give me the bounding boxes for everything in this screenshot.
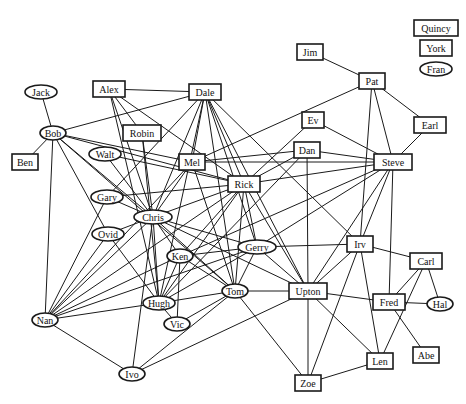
node-nan[interactable]: Nan (32, 313, 58, 327)
node-label: Bob (45, 128, 62, 139)
edge-carl-len (380, 261, 426, 361)
edge-tom-zoe (235, 291, 308, 383)
node-upton[interactable]: Upton (289, 283, 327, 299)
edge-steve-gerry (257, 162, 393, 247)
node-ken[interactable]: Ken (167, 249, 193, 263)
node-label: Fred (380, 297, 398, 308)
node-label: Alex (99, 84, 118, 95)
node-label: Hugh (148, 298, 170, 309)
node-label: Steve (382, 157, 405, 168)
node-label: York (426, 43, 446, 54)
node-label: Irv (354, 239, 366, 250)
node-robin[interactable]: Robin (123, 125, 161, 141)
node-zoe[interactable]: Zoe (295, 375, 321, 391)
edge-ovid-nan (45, 234, 108, 320)
node-chris[interactable]: Chris (134, 210, 172, 224)
node-fran[interactable]: Fran (420, 62, 452, 76)
node-dan[interactable]: Dan (294, 142, 320, 158)
node-fred[interactable]: Fred (373, 294, 405, 310)
node-label: Chris (142, 212, 164, 223)
node-york[interactable]: York (420, 40, 452, 56)
node-ev[interactable]: Ev (302, 112, 324, 128)
node-label: Jack (32, 87, 50, 98)
node-label: Gerry (245, 242, 268, 253)
edge-steve-upton (308, 162, 393, 291)
edge-irv-zoe (308, 244, 360, 383)
node-label: Gary (97, 192, 117, 203)
edge-steve-rick (244, 162, 393, 184)
node-gary[interactable]: Gary (91, 190, 123, 204)
node-label: Ivo (125, 369, 138, 380)
edge-bob-nan (45, 133, 53, 320)
node-label: Ken (172, 251, 189, 262)
edge-dan-upton (307, 150, 308, 291)
node-carl[interactable]: Carl (410, 253, 442, 269)
node-earl[interactable]: Earl (414, 117, 446, 133)
node-walt[interactable]: Walt (89, 147, 121, 161)
network-graph: QuincyYorkFranJimPatJackAlexDaleEarlEvDa… (0, 0, 466, 404)
node-label: Jim (303, 47, 318, 58)
edge-ken-vic (177, 256, 180, 324)
edge-nan-ivo (45, 320, 132, 374)
node-tom[interactable]: Tom (222, 284, 248, 298)
node-label: Walt (96, 149, 115, 160)
node-ovid[interactable]: Ovid (92, 227, 124, 241)
node-quincy[interactable]: Quincy (414, 20, 458, 36)
node-jack[interactable]: Jack (25, 85, 57, 99)
node-label: Abe (418, 350, 435, 361)
node-mel[interactable]: Mel (179, 154, 205, 170)
nodes-layer: QuincyYorkFranJimPatJackAlexDaleEarlEvDa… (12, 20, 458, 391)
node-label: Mel (184, 157, 200, 168)
node-label: Robin (130, 128, 154, 139)
node-irv[interactable]: Irv (347, 236, 373, 252)
node-label: Carl (417, 256, 434, 267)
node-label: Pat (366, 76, 379, 87)
edge-chris-ivo (132, 217, 153, 374)
node-label: Ben (17, 157, 33, 168)
node-label: Upton (296, 286, 321, 297)
edge-pat-steve (372, 81, 393, 162)
node-label: Vic (170, 319, 184, 330)
node-gerry[interactable]: Gerry (238, 240, 276, 254)
node-label: Rick (235, 179, 254, 190)
edge-dale-irv (205, 92, 360, 244)
edges-layer (25, 52, 440, 383)
node-label: Hal (433, 299, 448, 310)
node-bob[interactable]: Bob (40, 126, 66, 140)
edge-steve-fred (389, 162, 393, 302)
node-ivo[interactable]: Ivo (119, 367, 145, 381)
node-ben[interactable]: Ben (12, 154, 38, 170)
node-len[interactable]: Len (367, 353, 393, 369)
node-label: Nan (37, 315, 54, 326)
node-hal[interactable]: Hal (427, 297, 453, 311)
node-label: Tom (226, 286, 244, 297)
node-pat[interactable]: Pat (359, 73, 385, 89)
node-label: Zoe (300, 378, 316, 389)
node-label: Ev (307, 115, 318, 126)
node-dale[interactable]: Dale (189, 84, 221, 100)
node-hugh[interactable]: Hugh (143, 296, 175, 310)
node-label: Ovid (98, 229, 118, 240)
edge-mel-dan (192, 150, 307, 162)
node-vic[interactable]: Vic (164, 317, 190, 331)
node-steve[interactable]: Steve (374, 154, 412, 170)
node-label: Dale (196, 87, 215, 98)
node-abe[interactable]: Abe (413, 347, 439, 363)
node-label: Dan (299, 145, 316, 156)
node-rick[interactable]: Rick (228, 176, 260, 192)
node-label: Fran (427, 64, 445, 75)
node-label: Quincy (421, 23, 450, 34)
node-alex[interactable]: Alex (93, 81, 125, 97)
node-label: Earl (422, 120, 439, 131)
node-jim[interactable]: Jim (297, 44, 323, 60)
node-label: Len (372, 356, 388, 367)
edge-upton-len (308, 291, 380, 361)
